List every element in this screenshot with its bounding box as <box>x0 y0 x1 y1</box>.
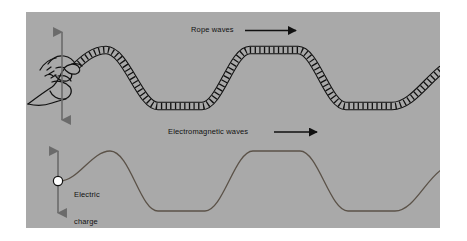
electric-charge-label: Electric charge <box>74 172 100 241</box>
physics-wave-diagram: Rope waves Electromagnetic waves Electri… <box>0 0 467 241</box>
electric-charge-label-line2: charge <box>74 217 100 226</box>
rope-waves-label: Rope waves <box>191 25 234 34</box>
electric-charge-label-line1: Electric <box>74 190 100 199</box>
electromagnetic-waves-label: Electromagnetic waves <box>168 127 248 136</box>
